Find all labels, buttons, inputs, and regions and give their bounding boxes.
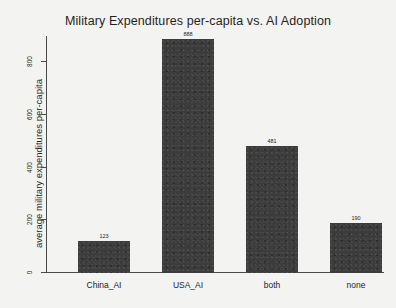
y-tick-label: 400 bbox=[26, 156, 33, 178]
x-tick-label-none: none bbox=[320, 280, 392, 290]
bar-china-ai bbox=[78, 241, 130, 273]
y-tick-mark bbox=[41, 167, 46, 168]
y-tick-label: 200 bbox=[26, 209, 33, 231]
y-axis-title: average military expenditures per-capita bbox=[33, 64, 44, 264]
x-tick-label-usa-ai: USA_AI bbox=[152, 280, 224, 290]
bar-value-label: 123 bbox=[78, 233, 130, 239]
bar-usa-ai bbox=[162, 39, 214, 273]
y-tick-label: 800 bbox=[26, 51, 33, 73]
y-axis-line bbox=[46, 36, 47, 273]
x-tick-label-china-ai: China_AI bbox=[68, 280, 140, 290]
y-tick-label: 0 bbox=[26, 262, 33, 284]
chart-figure: Military Expenditures per-capita vs. AI … bbox=[0, 0, 396, 308]
bar-none bbox=[330, 223, 382, 273]
x-tick-label-both: both bbox=[236, 280, 308, 290]
y-tick-mark bbox=[41, 272, 46, 273]
bar-value-label: 481 bbox=[246, 138, 298, 144]
plot-area: 0 200 400 600 800 123 China_AI 888 USA_A… bbox=[46, 36, 384, 273]
bar-both bbox=[246, 146, 298, 273]
bar-value-label: 190 bbox=[330, 215, 382, 221]
y-tick-mark bbox=[41, 61, 46, 62]
chart-title: Military Expenditures per-capita vs. AI … bbox=[0, 14, 396, 28]
bar-value-label: 888 bbox=[162, 31, 214, 37]
y-tick-mark bbox=[41, 114, 46, 115]
y-tick-label: 600 bbox=[26, 104, 33, 126]
y-tick-mark bbox=[41, 219, 46, 220]
